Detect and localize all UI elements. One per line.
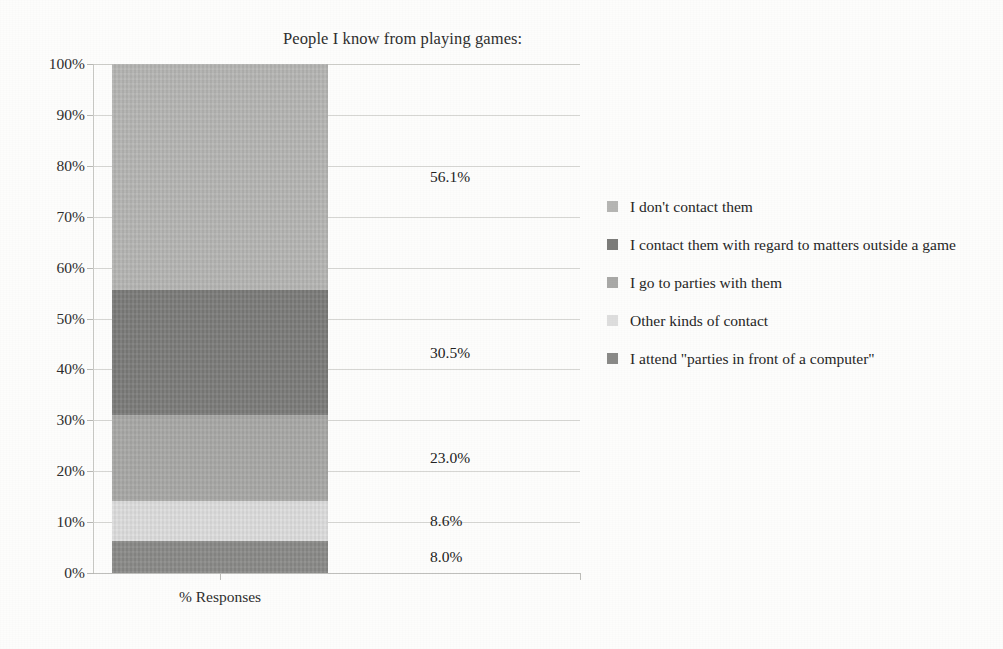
y-tick-label: 30% <box>15 412 85 428</box>
y-tick-label: 50% <box>15 311 85 327</box>
y-tick-mark <box>87 64 93 65</box>
legend-label: I go to parties with them <box>630 272 782 293</box>
gridline <box>93 573 580 574</box>
y-tick-label: 20% <box>15 463 85 479</box>
data-label: 56.1% <box>430 168 470 186</box>
stacked-bar[interactable] <box>112 64 328 573</box>
chart-title: People I know from playing games: <box>283 29 522 49</box>
y-tick-label: 70% <box>15 209 85 225</box>
y-tick-mark <box>87 471 93 472</box>
y-tick-mark <box>87 115 93 116</box>
y-tick-mark <box>87 369 93 370</box>
y-tick-mark <box>87 420 93 421</box>
y-tick-mark <box>87 166 93 167</box>
legend: I don't contact themI contact them with … <box>607 196 999 386</box>
data-label: 30.5% <box>430 344 470 362</box>
legend-item[interactable]: Other kinds of contact <box>607 310 999 331</box>
y-tick-label: 0% <box>15 565 85 581</box>
legend-swatch-icon <box>607 277 618 288</box>
bar-segment[interactable] <box>112 64 328 290</box>
legend-item[interactable]: I don't contact them <box>607 196 999 217</box>
data-label: 8.6% <box>430 512 462 530</box>
chart-page: People I know from playing games: 100%90… <box>0 0 1003 649</box>
y-tick-label: 60% <box>15 260 85 276</box>
data-label: 23.0% <box>430 449 470 467</box>
bar-segment[interactable] <box>112 415 328 501</box>
y-tick-mark <box>87 319 93 320</box>
legend-label: I attend "parties in front of a computer… <box>630 348 875 369</box>
legend-item[interactable]: I contact them with regard to matters ou… <box>607 234 999 255</box>
y-axis-labels: 100%90%80%70%60%50%40%30%20%10%0% <box>13 64 85 573</box>
y-tick-mark <box>87 573 93 574</box>
legend-swatch-icon <box>607 315 618 326</box>
y-tick-label: 100% <box>15 56 85 72</box>
plot-area: 8.0%8.6%23.0%30.5%56.1% <box>93 64 580 573</box>
legend-swatch-icon <box>607 201 618 212</box>
bar-segment[interactable] <box>112 541 328 573</box>
legend-item[interactable]: I go to parties with them <box>607 272 999 293</box>
y-tick-label: 90% <box>15 107 85 123</box>
y-tick-label: 80% <box>15 158 85 174</box>
x-tick-center <box>220 573 221 580</box>
y-tick-mark <box>87 217 93 218</box>
legend-label: Other kinds of contact <box>630 310 768 331</box>
x-axis-label: % Responses <box>112 588 328 606</box>
legend-item[interactable]: I attend "parties in front of a computer… <box>607 348 999 369</box>
legend-label: I contact them with regard to matters ou… <box>630 234 956 255</box>
legend-label: I don't contact them <box>630 196 753 217</box>
legend-swatch-icon <box>607 239 618 250</box>
y-tick-mark <box>87 268 93 269</box>
bar-segment[interactable] <box>112 290 328 415</box>
x-tick-right <box>580 573 581 580</box>
y-tick-label: 40% <box>15 361 85 377</box>
y-tick-label: 10% <box>15 514 85 530</box>
bar-segment[interactable] <box>112 501 328 542</box>
legend-swatch-icon <box>607 353 618 364</box>
data-label: 8.0% <box>430 548 462 566</box>
y-tick-mark <box>87 522 93 523</box>
